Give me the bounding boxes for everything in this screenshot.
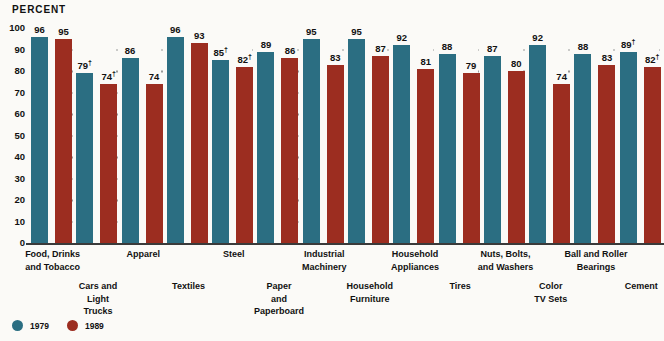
bar-group: 8879 — [439, 28, 480, 243]
bar-value-label: 83 — [602, 52, 613, 63]
bar-1989: 87 — [372, 56, 389, 243]
category-label: Industrial Machinery — [289, 248, 360, 273]
bar-1979: 95 — [348, 39, 365, 243]
bar-value-label: 88 — [578, 41, 589, 52]
bar-1989: 83 — [598, 65, 615, 243]
category-label: Apparel — [108, 248, 179, 261]
bar-chart: PERCENT 0102030405060708090100969579†74†… — [0, 0, 664, 341]
bar-value-label: 95 — [306, 26, 317, 37]
bar-value-label: 96 — [170, 24, 181, 35]
bar-1979: 89† — [620, 52, 637, 243]
category-label: Cars and Light Trucks — [62, 280, 133, 318]
category-label: Ball and Roller Bearings — [560, 248, 631, 273]
bar-1979: 88 — [574, 54, 591, 243]
bar-value-label: 92 — [532, 32, 543, 43]
x-axis-baseline — [26, 243, 664, 245]
category-label: Tires — [425, 280, 496, 293]
bar-value-label: 88 — [442, 41, 453, 52]
bar-group: 8986 — [257, 28, 298, 243]
category-label: Paper and Paperboard — [243, 280, 314, 318]
bar-value-label: 79 — [466, 60, 477, 71]
legend-label: 1979 — [30, 321, 49, 331]
bar-value-label: 85† — [213, 47, 227, 58]
bar-value-label: 83 — [330, 52, 341, 63]
bar-group: 79†74† — [76, 28, 117, 243]
category-label: Steel — [198, 248, 269, 261]
circle-marker-icon — [67, 320, 78, 331]
bar-1989: 74 — [553, 84, 570, 243]
bar-group: 9274 — [529, 28, 570, 243]
bar-1989: 81 — [417, 69, 434, 243]
bar-group: 9695 — [31, 28, 72, 243]
bar-value-label: 80 — [511, 58, 522, 69]
category-label: Household Appliances — [379, 248, 450, 273]
bar-group: 8674 — [122, 28, 163, 243]
bar-value-label: 74 — [556, 71, 567, 82]
bar-value-label: 93 — [194, 30, 205, 41]
y-axis-tick-label: 100 — [9, 23, 25, 33]
bar-1979: 86 — [122, 58, 139, 243]
bar-value-label: 82† — [645, 54, 659, 65]
category-label: Color TV Sets — [515, 280, 586, 305]
bar-1979: 87 — [484, 56, 501, 243]
bar-value-label: 89† — [621, 39, 635, 50]
bar-1979: 85† — [212, 60, 229, 243]
y-axis-tick-label: 60 — [14, 109, 25, 119]
bar-value-label: 86 — [125, 45, 136, 56]
bar-1979: 96 — [167, 37, 184, 243]
category-label: Nuts, Bolts, and Washers — [470, 248, 541, 273]
bar-1979: 88 — [439, 54, 456, 243]
bar-group: 8780 — [484, 28, 525, 243]
bar-1989: 79 — [463, 73, 480, 243]
bar-value-label: 79† — [78, 60, 92, 71]
bar-1989: 83 — [327, 65, 344, 243]
category-label: Textiles — [153, 280, 224, 293]
bar-group: 9281 — [393, 28, 434, 243]
bar-group: 9587 — [348, 28, 389, 243]
y-axis-tick-label: 90 — [14, 45, 25, 55]
category-label: Household Furniture — [334, 280, 405, 305]
bar-value-label: 87 — [375, 43, 386, 54]
bar-group: 9583 — [303, 28, 344, 243]
bar-value-label: 89 — [261, 39, 272, 50]
bar-group: 89†82† — [620, 28, 661, 243]
plot-area: 0102030405060708090100969579†74†86749693… — [30, 28, 664, 243]
bar-1989: 95 — [55, 39, 72, 243]
bar-value-label: 95 — [351, 26, 362, 37]
bar-1989: 93 — [191, 43, 208, 243]
bar-1989: 86 — [281, 58, 298, 243]
bar-1979: 95 — [303, 39, 320, 243]
bar-value-label: 81 — [420, 56, 431, 67]
bar-1979: 79† — [76, 73, 93, 243]
y-axis-tick-label: 30 — [14, 174, 25, 184]
bar-1979: 92 — [529, 45, 546, 243]
bar-group: 8883 — [574, 28, 615, 243]
y-axis-tick-label: 70 — [14, 88, 25, 98]
bar-value-label: 96 — [34, 24, 45, 35]
bar-value-label: 74† — [102, 71, 116, 82]
legend-item-1979[interactable]: 1979 — [12, 320, 49, 331]
bar-1989: 82† — [236, 67, 253, 243]
y-axis-tick-label: 80 — [14, 66, 25, 76]
y-axis-tick-label: 10 — [14, 217, 25, 227]
bar-1989: 74† — [100, 84, 117, 243]
bar-value-label: 74 — [149, 71, 160, 82]
bar-1979: 92 — [393, 45, 410, 243]
bar-value-label: 82† — [237, 54, 251, 65]
bar-1989: 74 — [146, 84, 163, 243]
legend-label: 1989 — [85, 321, 104, 331]
legend-item-1989[interactable]: 1989 — [67, 320, 104, 331]
bar-group: 9693 — [167, 28, 208, 243]
bar-value-label: 92 — [396, 32, 407, 43]
bar-value-label: 86 — [285, 45, 296, 56]
axis-unit-label: PERCENT — [12, 4, 66, 15]
bar-1979: 96 — [31, 37, 48, 243]
bar-1989: 80 — [508, 71, 525, 243]
y-axis-tick-label: 50 — [14, 131, 25, 141]
bar-1979: 89 — [257, 52, 274, 243]
category-label: Cement — [606, 280, 664, 293]
circle-marker-icon — [12, 320, 23, 331]
y-axis-tick-label: 0 — [20, 238, 25, 248]
category-label: Food, Drinks and Tobacco — [17, 248, 88, 273]
bar-value-label: 87 — [487, 43, 498, 54]
